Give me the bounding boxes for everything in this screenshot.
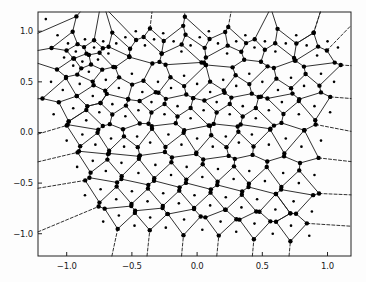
voronoi-vertex: [229, 95, 233, 99]
seed-point: [300, 145, 303, 148]
seed-point: [135, 30, 138, 33]
seed-point: [133, 224, 136, 227]
voronoi-vertex: [211, 122, 215, 126]
seed-point: [178, 202, 181, 205]
seed-point: [255, 117, 258, 120]
voronoi-vertex: [237, 217, 241, 221]
voronoi-vertex: [97, 51, 101, 55]
voronoi-vertex: [163, 145, 167, 149]
voronoi-vertex: [217, 233, 221, 237]
voronoi-vertex: [102, 206, 106, 210]
voronoi-vertex: [72, 56, 76, 60]
seed-point: [232, 178, 235, 181]
voronoi-vertex: [294, 212, 298, 216]
voronoi-vertex: [101, 46, 105, 50]
voronoi-vertex: [66, 119, 70, 123]
seed-point: [52, 113, 55, 116]
voronoi-vertex: [317, 191, 321, 195]
voronoi-vertex: [265, 96, 269, 100]
voronoi-vertex: [149, 110, 153, 114]
seed-point: [313, 105, 316, 108]
voronoi-vertex: [203, 215, 207, 219]
seed-point: [99, 188, 102, 191]
voronoi-vertex: [281, 112, 285, 116]
voronoi-vertex: [257, 209, 261, 213]
voronoi-vertex: [92, 38, 96, 42]
seed-point: [217, 42, 220, 45]
seed-point: [256, 198, 259, 201]
voronoi-vertex: [82, 45, 86, 49]
voronoi-vertex: [250, 153, 254, 157]
seed-point: [235, 230, 238, 233]
seed-point: [202, 109, 205, 112]
voronoi-vertex: [311, 31, 315, 35]
voronoi-vertex: [191, 96, 195, 100]
seed-point: [118, 214, 121, 217]
voronoi-vertex: [272, 123, 276, 127]
seed-point: [63, 56, 66, 59]
seed-point: [201, 176, 204, 179]
voronoi-vertex: [40, 96, 44, 100]
seed-point: [84, 38, 87, 41]
voronoi-vertex: [150, 61, 154, 65]
voronoi-vertex: [64, 76, 68, 80]
seed-point: [261, 81, 264, 84]
voronoi-vertex: [75, 150, 79, 154]
figure-canvas: −1.0−0.50.00.51.01.00.50.0−0.5−1.0: [0, 0, 366, 282]
seed-point: [162, 32, 165, 35]
seed-point: [240, 206, 243, 209]
seed-point: [111, 103, 114, 106]
seed-point: [241, 105, 244, 108]
y-tick-label: 1.0: [4, 26, 33, 36]
voronoi-vertex: [259, 94, 263, 98]
seed-point: [105, 79, 108, 82]
voronoi-vertex: [183, 15, 187, 19]
seed-point: [149, 216, 152, 219]
seed-point: [311, 210, 314, 213]
voronoi-vertex: [233, 73, 237, 77]
seed-point: [144, 44, 147, 47]
voronoi-vertex: [126, 97, 130, 101]
voronoi-vertex: [242, 57, 246, 61]
seed-point: [183, 218, 186, 221]
seed-point: [124, 115, 127, 118]
seed-point: [292, 200, 295, 203]
seed-point: [81, 60, 84, 63]
voronoi-vertex: [78, 144, 82, 148]
voronoi-vertex: [333, 60, 337, 64]
voronoi-vertex: [110, 112, 114, 116]
voronoi-vertex: [226, 43, 230, 47]
voronoi-vertex: [75, 72, 79, 76]
voronoi-vertex: [156, 91, 160, 95]
x-tick-label: 1.0: [321, 261, 334, 271]
seed-point: [281, 101, 284, 104]
voronoi-vertex: [275, 27, 279, 31]
voronoi-vertex: [181, 131, 185, 135]
voronoi-vertex: [279, 185, 283, 189]
voronoi-vertex: [252, 37, 256, 41]
voronoi-vertex: [137, 99, 141, 103]
seed-point: [326, 40, 329, 43]
seed-point: [88, 70, 91, 73]
voronoi-vertex: [244, 41, 248, 45]
seed-point: [248, 170, 251, 173]
voronoi-vertex: [88, 170, 92, 174]
voronoi-vertex: [114, 184, 118, 188]
voronoi-vertex: [240, 192, 244, 196]
voronoi-vertex: [288, 211, 292, 215]
seed-point: [97, 58, 100, 61]
voronoi-vertex: [162, 102, 166, 106]
voronoi-vertex: [124, 103, 128, 107]
voronoi-vertex: [265, 165, 269, 169]
seed-point: [305, 44, 308, 47]
voronoi-vertex: [293, 58, 297, 62]
voronoi-vertex: [87, 53, 91, 57]
seed-point: [91, 160, 94, 163]
voronoi-vertex: [148, 26, 152, 30]
voronoi-vertex: [215, 179, 219, 183]
voronoi-vertex: [208, 190, 212, 194]
seed-point: [189, 117, 192, 120]
seed-point: [157, 81, 160, 84]
voronoi-vertex: [254, 106, 258, 110]
voronoi-vertex: [207, 37, 211, 41]
